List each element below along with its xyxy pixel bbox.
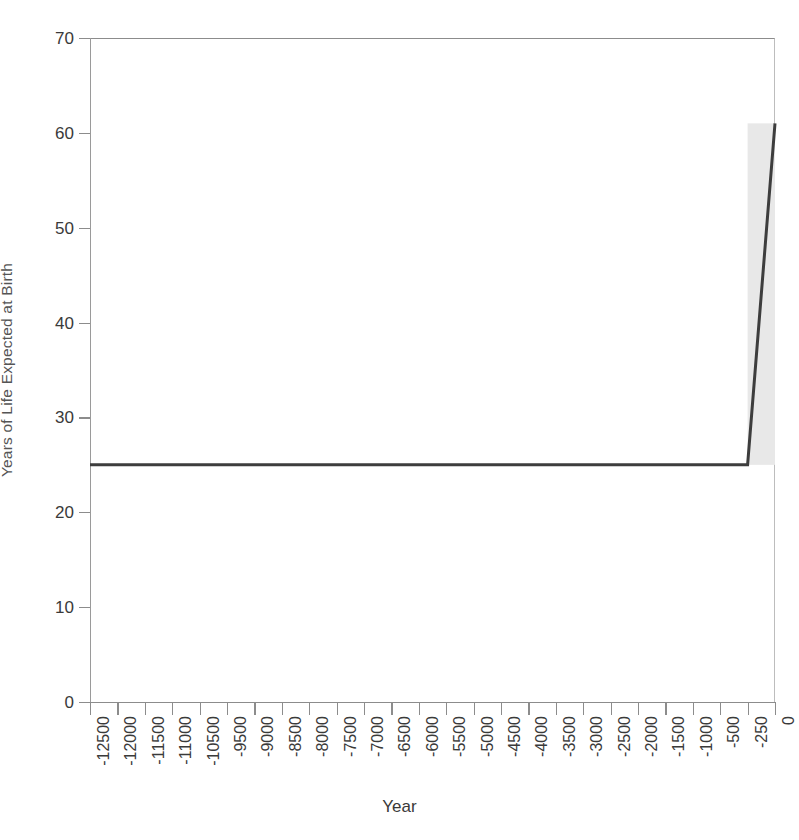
x-tick-label: -7000 [370,716,386,757]
x-tick-label: -10500 [206,716,222,766]
x-tick-label: -8000 [315,716,331,757]
chart-data-layer [90,38,775,702]
x-tick-label: -7500 [343,716,359,757]
chart-figure: Years of Life Expected at Birth 01020304… [0,0,799,840]
y-tick-label: 70 [0,30,74,47]
x-tick-label: -9000 [260,716,276,757]
y-tick-label: 0 [0,694,74,711]
y-tick-label: 60 [0,124,74,141]
x-tick-mark [117,702,118,715]
x-axis-line [79,702,776,703]
x-tick-mark [638,702,639,715]
x-tick-mark [611,702,612,715]
x-tick-mark [364,702,365,715]
x-tick-label: -250 [754,716,770,748]
life-expectancy-line [90,123,775,464]
x-tick-mark [474,702,475,715]
x-tick-label: -1000 [699,716,715,757]
x-tick-label: -11000 [178,716,194,765]
x-tick-label: -4500 [507,716,523,757]
x-tick-mark [665,702,666,715]
x-tick-mark [446,702,447,715]
x-tick-mark [200,702,201,715]
x-tick-mark [254,702,255,715]
y-tick-label: 40 [0,314,74,331]
x-tick-mark [583,702,584,715]
x-tick-mark [693,702,694,715]
x-tick-label: -2500 [617,716,633,757]
y-axis-tick-labels: 010203040506070 [0,0,74,840]
x-tick-label: -11500 [151,716,167,765]
x-tick-mark [556,702,557,715]
x-tick-label: -9500 [233,716,249,757]
x-tick-mark [775,702,776,715]
x-axis-title: Year [0,797,799,817]
x-tick-mark [145,702,146,715]
x-tick-label: -8500 [288,716,304,757]
x-tick-label: 0 [781,716,797,725]
x-tick-mark [391,702,392,715]
x-tick-mark [172,702,173,715]
x-tick-label: -2000 [644,716,660,757]
x-tick-label: -1500 [671,716,687,757]
y-tick-label: 50 [0,219,74,236]
x-tick-mark [720,702,721,715]
x-tick-mark [419,702,420,715]
x-tick-mark [227,702,228,715]
x-tick-label: -12500 [96,716,112,766]
x-tick-label: -5500 [452,716,468,757]
x-tick-label: -4000 [534,716,550,757]
x-tick-mark [337,702,338,715]
x-tick-label: -6000 [425,716,441,757]
y-tick-label: 20 [0,504,74,521]
y-tick-label: 10 [0,599,74,616]
x-tick-label: -500 [726,716,742,748]
x-tick-mark [282,702,283,715]
x-tick-label: -3000 [589,716,605,757]
x-tick-mark [309,702,310,715]
x-tick-mark [90,702,91,715]
x-tick-label: -3500 [562,716,578,757]
x-tick-label: -12000 [123,716,139,766]
x-tick-label: -6500 [397,716,413,757]
x-tick-mark [528,702,529,715]
y-tick-label: 30 [0,409,74,426]
x-tick-mark [501,702,502,715]
x-tick-mark [748,702,749,715]
x-tick-label: -5000 [480,716,496,757]
